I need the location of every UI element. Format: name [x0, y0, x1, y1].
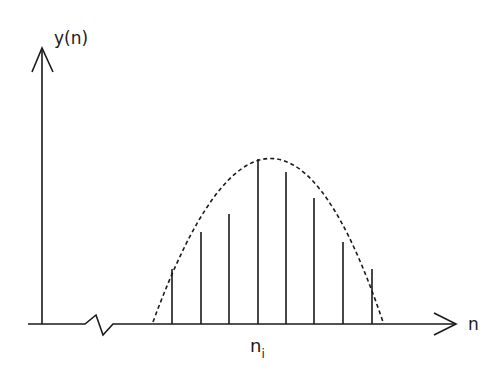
y-axis-label: y(n) [54, 28, 88, 48]
x-axis-label: n [468, 314, 479, 334]
stem-diagram: y(n) n ni [0, 0, 503, 379]
marker-label: ni [250, 335, 265, 361]
x-axis [28, 315, 455, 335]
stems [172, 159, 372, 324]
envelope-curve [153, 159, 383, 323]
marker-label-subscript: i [261, 347, 264, 361]
marker-label-base: n [250, 335, 261, 356]
